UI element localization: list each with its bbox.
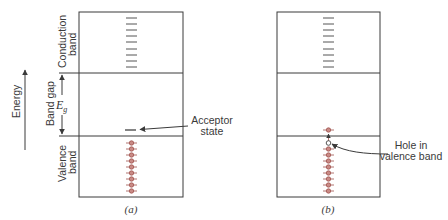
band-diagram: Energy Conduction band Band gap Valence … xyxy=(0,0,448,220)
caption-a: (a) xyxy=(125,203,138,216)
hole xyxy=(326,141,331,146)
caption-b: (b) xyxy=(322,203,335,216)
panel-b: Hole in valence band (b) xyxy=(277,12,442,216)
eg-symbol: Eg xyxy=(55,98,67,114)
valence-label-2: band xyxy=(66,150,78,174)
energy-axis: Energy xyxy=(10,70,25,150)
conduction-label-2: band xyxy=(66,32,78,56)
hole-label-2: valence band xyxy=(380,150,443,162)
panel-a: Acceptor state (a) xyxy=(79,12,233,216)
acceptor-electron xyxy=(323,128,334,132)
valence-electrons-a xyxy=(126,141,137,193)
valence-electrons-b xyxy=(323,147,334,193)
band-gap-label: Band gap xyxy=(44,81,56,126)
conduction-levels-a xyxy=(126,18,137,67)
gap-energy-indicator: Eg xyxy=(55,73,79,136)
conduction-levels-b xyxy=(323,18,334,67)
acceptor-label-2: state xyxy=(201,125,224,137)
energy-label: Energy xyxy=(10,84,22,118)
